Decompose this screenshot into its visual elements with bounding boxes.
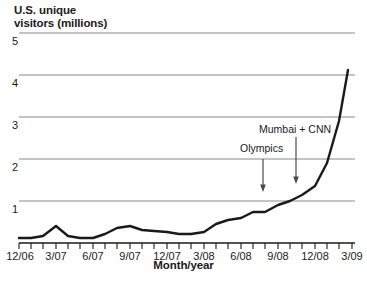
chart-plot-area <box>0 0 367 283</box>
y-tick-label-4: 4 <box>12 78 18 89</box>
chart-container: U.S. unique visitors (millions) <box>0 0 367 283</box>
gridlines <box>19 33 355 201</box>
y-tick-label-2: 2 <box>12 162 18 173</box>
data-line-series <box>19 70 348 238</box>
annotation-label-mumbai-cnn: Mumbai + CNN <box>259 124 331 135</box>
y-tick-label-5: 5 <box>12 36 18 47</box>
y-tick-label-3: 3 <box>12 120 18 131</box>
annotation-label-olympics: Olympics <box>240 143 283 154</box>
mumbai-cnn-arrow-head <box>293 177 299 185</box>
y-tick-label-1: 1 <box>12 204 18 215</box>
olympics-arrow-head <box>260 185 266 193</box>
x-axis <box>19 243 355 249</box>
x-axis-ticks <box>19 243 352 249</box>
x-axis-title: Month/year <box>0 259 367 271</box>
